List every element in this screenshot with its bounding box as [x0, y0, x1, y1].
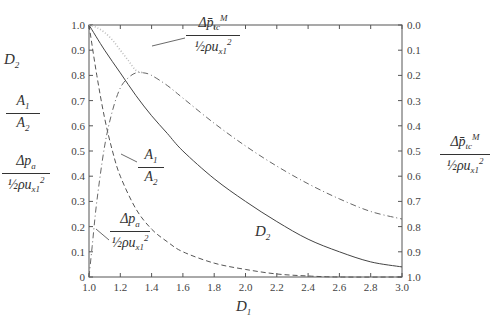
- y-right-tick-label: 0.3: [407, 95, 421, 107]
- y-right-tick-label: 0.4: [407, 120, 421, 132]
- left-label-d2: D2: [4, 52, 19, 70]
- x-tick-label: 1.2: [113, 281, 127, 293]
- chart-canvas: 1.01.21.41.61.82.02.22.42.62.83.000.10.2…: [0, 0, 491, 329]
- y-right-tick-label: 0.8: [407, 221, 421, 233]
- y-right-tick-label: 0.1: [407, 44, 421, 56]
- annotation-total-pressure: Δp̄tcM ½ρux12: [186, 14, 240, 57]
- y-left-tick-label: 0.6: [71, 120, 85, 132]
- y-left-tick-label: 0: [80, 271, 86, 283]
- x-tick-label: 2.6: [333, 281, 347, 293]
- y-left-tick-label: 0.1: [71, 246, 85, 258]
- leader-line: [96, 229, 109, 240]
- y-left-tick-label: 0.8: [71, 69, 85, 81]
- y-right-tick-label: 0.2: [407, 69, 421, 81]
- left-label-pressure-drop: Δpa ½ρux12: [2, 154, 50, 195]
- y-right-tick-label: 0.6: [407, 170, 421, 182]
- y-left-tick-label: 0.5: [71, 145, 85, 157]
- x-tick-label: 1.4: [145, 281, 159, 293]
- right-axis-label: Δp̄tcM ½ρux12: [440, 133, 490, 176]
- y-left-tick-label: 0.9: [71, 44, 85, 56]
- x-tick-label: 2.4: [301, 281, 315, 293]
- x-tick-label: 2.0: [239, 281, 253, 293]
- y-left-tick-label: 0.3: [71, 195, 85, 207]
- y-right-tick-label: 0.7: [407, 195, 421, 207]
- curve-dotted: [89, 25, 144, 73]
- x-axis-label: D1: [236, 299, 251, 317]
- y-left-tick-label: 0.7: [71, 95, 85, 107]
- left-label-area-ratio: A1 A2: [6, 94, 40, 133]
- annotation-area-ratio: A1 A2: [138, 148, 164, 187]
- x-tick-label: 1.6: [176, 281, 190, 293]
- y-right-tick-label: 0.0: [407, 19, 421, 31]
- y-right-tick-label: 0.9: [407, 246, 421, 258]
- x-tick-label: 2.2: [270, 281, 284, 293]
- y-right-tick-label: 1.0: [407, 271, 421, 283]
- x-tick-label: 1.8: [207, 281, 221, 293]
- annotation-pressure-drop: Δpa ½ρux12: [110, 212, 150, 253]
- annotation-d2: D2: [255, 224, 270, 242]
- y-right-tick-label: 0.5: [407, 145, 421, 157]
- y-left-tick-label: 1.0: [71, 19, 85, 31]
- leader-line: [152, 38, 185, 46]
- x-tick-label: 2.8: [364, 281, 378, 293]
- leader-line: [121, 154, 137, 162]
- y-left-tick-label: 0.2: [71, 221, 85, 233]
- y-left-tick-label: 0.4: [71, 170, 85, 182]
